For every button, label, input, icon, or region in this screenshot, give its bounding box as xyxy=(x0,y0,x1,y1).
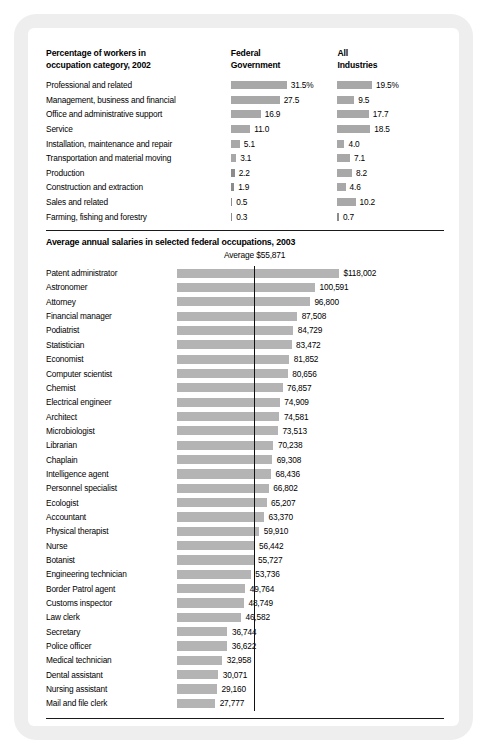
occupation-label: Medical technician xyxy=(46,655,177,665)
bar-container: 30,071 xyxy=(177,670,444,680)
salary-bar xyxy=(177,441,273,450)
occupation-label: Chemist xyxy=(46,383,177,393)
salary-value-label: 65,207 xyxy=(271,498,295,508)
cell-federal-government: 31.5% xyxy=(231,78,338,93)
salary-value-label: 69,308 xyxy=(277,455,301,465)
salary-row: Medical technician32,958 xyxy=(46,653,444,667)
cell-all-industries: 17.7 xyxy=(337,107,444,122)
table-row: Transportation and material moving3.17.1 xyxy=(46,151,444,166)
salary-bar xyxy=(177,283,315,292)
bar-container: 0.3 xyxy=(231,209,248,224)
occupation-label: Astronomer xyxy=(46,282,177,292)
value-label-federal-government: 2.2 xyxy=(239,168,250,178)
bar-container: 65,207 xyxy=(177,498,444,508)
salary-bar xyxy=(177,641,227,650)
salary-row: Customs inspector48,749 xyxy=(46,596,444,610)
salary-row: Microbiologist73,513 xyxy=(46,424,444,438)
salary-bar xyxy=(177,570,251,579)
average-vertical-line xyxy=(254,266,255,711)
bar-container: 83,472 xyxy=(177,340,444,350)
salary-row: Personnel specialist66,802 xyxy=(46,481,444,495)
cell-federal-government: 0.5 xyxy=(231,195,338,210)
salary-row: Financial manager87,508 xyxy=(46,309,444,323)
bar-all-industries xyxy=(337,183,345,191)
cell-all-industries: 19.5% xyxy=(337,78,444,93)
salary-value-label: 80,656 xyxy=(292,369,316,379)
value-label-federal-government: 3.1 xyxy=(240,153,251,163)
salary-value-label: 73,513 xyxy=(282,426,306,436)
occupation-label: Statistician xyxy=(46,340,177,350)
occupation-label: Mail and file clerk xyxy=(46,698,177,708)
salary-value-label: 63,370 xyxy=(269,512,293,522)
occupation-label: Service xyxy=(46,124,231,134)
occupation-label: Patent administrator xyxy=(46,268,177,278)
salary-bar xyxy=(177,541,254,550)
bar-all-industries xyxy=(337,81,372,89)
value-label-all-industries: 0.7 xyxy=(343,212,354,222)
cell-all-industries: 4.0 xyxy=(337,136,444,151)
salary-value-label: 46,582 xyxy=(245,612,269,622)
table-row: Construction and extraction1.94.6 xyxy=(46,180,444,195)
section1-title-line1: Percentage of workers in xyxy=(46,48,231,60)
section1-title: Percentage of workers in occupation cate… xyxy=(46,48,231,71)
salary-value-label: 59,910 xyxy=(264,526,288,536)
bar-federal-government xyxy=(231,169,235,177)
value-label-federal-government: 5.1 xyxy=(244,139,255,149)
bar-container: 27.5 xyxy=(231,93,299,108)
salary-chart-area: Patent administrator$118,002Astronomer10… xyxy=(46,266,444,711)
bar-container: 100,591 xyxy=(177,282,444,292)
value-label-federal-government: 31.5% xyxy=(291,80,314,90)
table-row: Installation, maintenance and repair5.14… xyxy=(46,136,444,151)
bar-container: 4.6 xyxy=(337,180,360,195)
table-row: Sales and related0.510.2 xyxy=(46,195,444,210)
average-label-row: Average $55,871 xyxy=(46,250,444,266)
salary-row: Dental assistant30,071 xyxy=(46,668,444,682)
salary-value-label: 83,472 xyxy=(296,340,320,350)
bar-federal-government xyxy=(231,140,240,148)
cell-federal-government: 1.9 xyxy=(231,180,338,195)
salary-bar xyxy=(177,527,259,536)
salary-bar xyxy=(177,398,280,407)
occupation-label: Office and administrative support xyxy=(46,109,231,119)
value-label-all-industries: 4.6 xyxy=(350,182,361,192)
salary-value-label: 55,727 xyxy=(258,555,282,565)
average-annotation-label: Average $55,871 xyxy=(224,250,285,260)
value-label-federal-government: 11.0 xyxy=(254,124,269,134)
bar-container: 4.0 xyxy=(337,136,359,151)
cell-all-industries: 9.5 xyxy=(337,93,444,108)
bar-container: 74,581 xyxy=(177,412,444,422)
value-label-all-industries: 9.5 xyxy=(358,95,369,105)
salary-row: Botanist55,727 xyxy=(46,553,444,567)
value-label-federal-government: 0.5 xyxy=(236,197,247,207)
bar-all-industries xyxy=(337,110,368,118)
bar-container: 11.0 xyxy=(231,122,269,137)
salary-row: Attorney96,800 xyxy=(46,295,444,309)
bar-container: 36,622 xyxy=(177,641,444,651)
salary-row: Librarian70,238 xyxy=(46,438,444,452)
salary-bar xyxy=(177,269,339,278)
bar-container: 9.5 xyxy=(337,93,369,108)
value-label-all-industries: 19.5% xyxy=(376,80,399,90)
table-row: Production2.28.2 xyxy=(46,166,444,181)
salary-row: Patent administrator$118,002 xyxy=(46,266,444,280)
salary-row: Computer scientist80,656 xyxy=(46,366,444,380)
salary-row: Intelligence agent68,436 xyxy=(46,467,444,481)
bar-container: 8.2 xyxy=(337,166,367,181)
bar-container: 55,727 xyxy=(177,555,444,565)
salary-bar xyxy=(177,699,215,708)
salary-row: Statistician83,472 xyxy=(46,338,444,352)
bar-federal-government xyxy=(231,110,261,118)
occupation-label: Electrical engineer xyxy=(46,397,177,407)
bar-container: 31.5% xyxy=(231,78,314,93)
occupation-label: Professional and related xyxy=(46,80,231,90)
salary-value-label: 68,436 xyxy=(275,469,299,479)
page-root: Percentage of workers in occupation cate… xyxy=(0,0,487,754)
bar-container: 0.7 xyxy=(337,209,354,224)
table-row: Management, business and financial27.59.… xyxy=(46,93,444,108)
bar-federal-government xyxy=(231,125,251,133)
salary-row: Podiatrist84,729 xyxy=(46,323,444,337)
cell-federal-government: 2.2 xyxy=(231,166,338,181)
bar-container: 1.9 xyxy=(231,180,249,195)
salary-value-label: 56,442 xyxy=(259,541,283,551)
salary-value-label: 29,160 xyxy=(222,684,246,694)
